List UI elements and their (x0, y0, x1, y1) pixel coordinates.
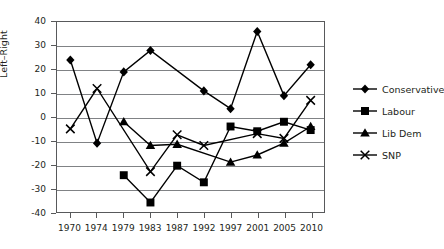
x-tick-mark (231, 213, 232, 218)
data-point-cross (173, 131, 182, 140)
data-point-diamond (226, 104, 234, 113)
square-marker-icon (352, 104, 378, 118)
data-point-square (173, 162, 181, 170)
data-point-square (280, 118, 288, 126)
series-line (70, 89, 310, 172)
data-point-cross (93, 84, 102, 93)
x-tick-mark (258, 213, 259, 218)
data-point-square (361, 107, 369, 115)
series-labour (120, 118, 315, 207)
legend-label: Labour (382, 106, 415, 117)
plot-area (56, 21, 325, 213)
series-snp (66, 84, 315, 176)
data-point-cross (66, 125, 75, 134)
y-axis-title: Left–Right (0, 30, 9, 78)
x-tick-mark (312, 213, 313, 218)
cross-marker-icon (352, 148, 378, 162)
diamond-marker-icon (352, 82, 378, 96)
legend-item-snp[interactable]: SNP (352, 144, 444, 166)
y-tick-label: 20 (18, 65, 46, 74)
series-line (70, 32, 310, 144)
y-tick-label: -10 (18, 137, 46, 146)
x-tick-mark (96, 213, 97, 218)
series-layer (57, 22, 324, 212)
data-point-square (146, 199, 154, 207)
x-tick-mark (177, 213, 178, 218)
data-point-triangle (306, 122, 316, 130)
data-point-cross (306, 96, 315, 105)
y-tick-label: -40 (18, 209, 46, 218)
x-tick-mark (123, 213, 124, 218)
x-tick-mark (70, 213, 71, 218)
legend-item-conservative[interactable]: Conservative (352, 78, 444, 100)
legend-item-lib-dem[interactable]: Lib Dem (352, 122, 444, 144)
data-point-triangle (252, 150, 262, 158)
y-tick-label: 40 (18, 17, 46, 26)
y-tick-label: 30 (18, 41, 46, 50)
data-point-diamond (93, 139, 101, 148)
series-line (124, 122, 311, 203)
y-tick-label: 0 (18, 113, 46, 122)
x-tick-mark (150, 213, 151, 218)
data-point-square (227, 123, 235, 131)
legend-item-labour[interactable]: Labour (352, 100, 444, 122)
x-tick-mark (285, 213, 286, 218)
data-point-square (200, 178, 208, 186)
x-tick-label: 2010 (295, 224, 329, 233)
data-point-diamond (361, 84, 369, 93)
y-tick-label: -30 (18, 185, 46, 194)
chart-legend: ConservativeLabourLib DemSNP (352, 78, 444, 166)
data-point-diamond (253, 27, 261, 36)
triangle-marker-icon (352, 126, 378, 140)
data-point-diamond (66, 55, 74, 64)
series-conservative (66, 27, 315, 148)
legend-label: SNP (382, 150, 401, 161)
data-point-square (120, 171, 128, 179)
data-point-diamond (200, 86, 208, 95)
data-point-triangle (172, 140, 182, 148)
y-tick-mark (51, 213, 56, 214)
x-tick-mark (204, 213, 205, 218)
y-tick-label: 10 (18, 89, 46, 98)
y-tick-label: -20 (18, 161, 46, 170)
legend-label: Conservative (382, 84, 444, 95)
data-point-cross (146, 167, 155, 176)
legend-label: Lib Dem (382, 128, 421, 139)
